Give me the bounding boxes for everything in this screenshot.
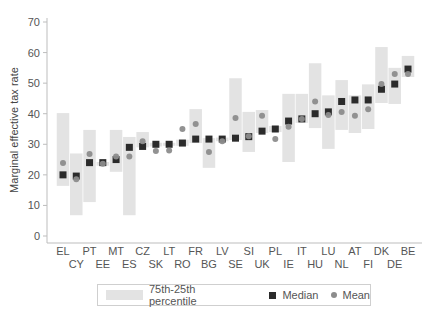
median-marker	[391, 81, 398, 88]
x-tick-label: BE	[401, 245, 416, 257]
x-tick-label: DE	[387, 258, 402, 270]
median-marker	[86, 159, 93, 166]
mean-marker	[365, 106, 371, 112]
mean-marker	[259, 113, 265, 119]
range-bar	[322, 95, 335, 149]
x-tick-label: MT	[108, 245, 124, 257]
x-tick-label: AT	[348, 245, 362, 257]
range-bar	[335, 80, 348, 130]
mean-marker	[378, 81, 384, 87]
x-tick-label: IT	[297, 245, 307, 257]
mean-marker	[339, 109, 345, 115]
range-swatch-icon	[106, 290, 143, 300]
x-tick-label: SI	[244, 245, 254, 257]
mean-marker	[140, 138, 146, 144]
y-tick-label: 70	[28, 16, 40, 28]
median-marker	[312, 110, 319, 117]
square-marker-icon	[269, 292, 276, 299]
circle-marker-icon	[331, 292, 337, 298]
range-bar	[70, 153, 83, 215]
y-tick-label: 60	[28, 47, 40, 59]
legend-label-mean: Mean	[342, 289, 370, 301]
y-tick-label: 0	[34, 230, 40, 242]
x-tick-label: EL	[56, 245, 69, 257]
median-marker	[285, 118, 292, 125]
median-marker	[351, 96, 358, 103]
mean-marker	[325, 112, 331, 118]
x-tick-label: FI	[363, 258, 373, 270]
mean-marker	[219, 138, 225, 144]
median-marker	[152, 141, 159, 148]
y-tick-label: 20	[28, 169, 40, 181]
x-tick-label: CY	[69, 258, 85, 270]
legend-item-median: Median	[243, 289, 318, 301]
range-bar	[309, 63, 322, 128]
legend-item-range: 75th-25th percentile	[98, 283, 243, 307]
mean-marker	[392, 71, 398, 77]
mean-marker	[206, 149, 212, 155]
x-tick-label: ES	[122, 258, 137, 270]
median-marker	[205, 136, 212, 143]
x-tick-label: NL	[335, 258, 349, 270]
y-axis: 010203040506070	[28, 16, 47, 243]
median-marker	[259, 128, 266, 135]
mean-marker	[113, 154, 119, 160]
x-tick-label: SE	[228, 258, 243, 270]
y-tick-label: 30	[28, 138, 40, 150]
y-axis-label: Marginal effective tax rate	[8, 67, 20, 193]
mean-marker	[153, 148, 159, 154]
y-tick-label: 10	[28, 199, 40, 211]
y-tick-label: 50	[28, 77, 40, 89]
median-marker	[365, 96, 372, 103]
range-bar	[110, 130, 123, 172]
mean-marker	[272, 136, 278, 142]
range-bar	[229, 78, 242, 140]
x-tick-label: SK	[149, 258, 164, 270]
x-tick-label: UK	[254, 258, 270, 270]
mean-marker	[126, 154, 132, 160]
x-tick-label: EE	[95, 258, 110, 270]
median-marker	[192, 136, 199, 143]
x-tick-label: PL	[269, 245, 282, 257]
mean-marker	[193, 121, 199, 127]
median-marker	[60, 171, 67, 178]
mean-marker	[352, 113, 358, 119]
mean-marker	[233, 115, 239, 121]
legend-label-range: 75th-25th percentile	[149, 283, 243, 307]
chart-canvas: 010203040506070 ELCYPTEEMTESCZSKLTROFRBG…	[0, 0, 437, 317]
x-tick-label: IE	[283, 258, 293, 270]
x-tick-label: PT	[83, 245, 97, 257]
median-marker	[338, 98, 345, 105]
y-tick-label: 40	[28, 108, 40, 120]
median-marker	[272, 126, 279, 133]
mean-marker	[100, 161, 106, 167]
mean-marker	[286, 124, 292, 130]
range-bar	[243, 112, 256, 152]
mean-marker	[299, 116, 305, 122]
legend-label-median: Median	[282, 289, 318, 301]
mean-marker	[179, 126, 185, 132]
x-tick-label: BG	[201, 258, 217, 270]
range-bar	[375, 47, 388, 103]
mean-marker	[246, 133, 252, 139]
x-tick-label: LT	[163, 245, 175, 257]
x-tick-label: HU	[307, 258, 323, 270]
plot-area	[57, 47, 415, 215]
x-tick-label: CZ	[135, 245, 150, 257]
median-marker	[179, 140, 186, 147]
legend-item-mean: Mean	[318, 289, 370, 301]
median-marker	[232, 135, 239, 142]
x-tick-label: DK	[374, 245, 390, 257]
x-tick-label: FR	[188, 245, 203, 257]
mean-marker	[87, 151, 93, 157]
x-tick-label: LU	[321, 245, 335, 257]
x-tick-label: LV	[216, 245, 229, 257]
median-marker	[166, 141, 173, 148]
x-tick-label: RO	[174, 258, 191, 270]
mean-marker	[166, 147, 172, 153]
mean-marker	[312, 98, 318, 104]
median-marker	[126, 144, 133, 151]
x-axis: ELCYPTEEMTESCZSKLTROFRBGLVSESIUKPLIEITHU…	[47, 243, 422, 270]
mean-marker	[60, 160, 66, 166]
mean-marker	[73, 176, 79, 182]
